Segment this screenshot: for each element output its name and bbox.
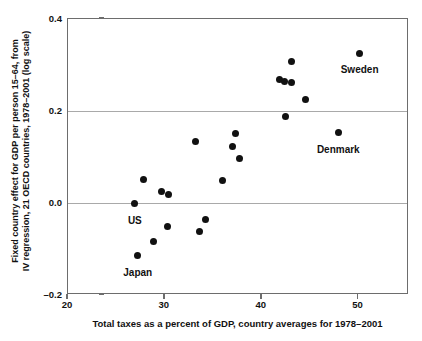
data-point (282, 113, 289, 120)
y-axis-title-line-1: Fixed country effect for GDP per person … (10, 6, 21, 296)
y-tick-label: 0.0 (49, 197, 62, 208)
x-tick-label: 20 (62, 299, 73, 310)
data-point (134, 252, 141, 259)
point-label-japan: Japan (123, 267, 152, 278)
data-point (202, 216, 209, 223)
data-point (288, 79, 295, 86)
x-tick-mark (357, 294, 359, 299)
scatter-chart-figure: Fixed country effect for GDP per person … (0, 0, 422, 341)
data-point (165, 191, 172, 198)
data-point (150, 238, 157, 245)
data-point (192, 138, 199, 145)
data-point (229, 143, 236, 150)
gridline-y-0 (68, 203, 407, 204)
data-point (281, 78, 288, 85)
y-axis-title-line-2: IV regression, 21 OECD countries, 1978–2… (21, 6, 32, 296)
x-tick-label: 50 (352, 299, 363, 310)
x-tick-mark (260, 294, 262, 299)
x-tick-mark (163, 294, 165, 299)
x-axis-title: Total taxes as a percent of GDP, country… (67, 318, 408, 329)
point-label-sweden: Sweden (341, 64, 379, 75)
data-point (335, 129, 342, 136)
point-label-denmark: Denmark (317, 144, 360, 155)
x-tick-label: 40 (255, 299, 266, 310)
data-point (288, 58, 295, 65)
data-point (219, 177, 226, 184)
data-point (232, 130, 239, 137)
y-tick-label: 0.4 (49, 13, 62, 24)
y-tick-label: 0.2 (49, 105, 62, 116)
data-point (302, 96, 309, 103)
data-point (236, 155, 243, 162)
plot-area: SwedenDenmarkUSJapan (67, 18, 408, 294)
y-axis-ticks: –0.20.00.20.4 (36, 0, 62, 341)
data-point (356, 50, 363, 57)
x-tick-mark (66, 294, 68, 299)
data-point (140, 176, 147, 183)
data-point (196, 228, 203, 235)
x-tick-label: 30 (159, 299, 170, 310)
point-label-us: US (128, 215, 142, 226)
data-point (164, 223, 171, 230)
y-tick-label: –0.2 (44, 289, 63, 300)
y-axis-title: Fixed country effect for GDP per person … (10, 6, 32, 296)
gridline-y-1 (68, 111, 407, 112)
data-point (131, 200, 138, 207)
